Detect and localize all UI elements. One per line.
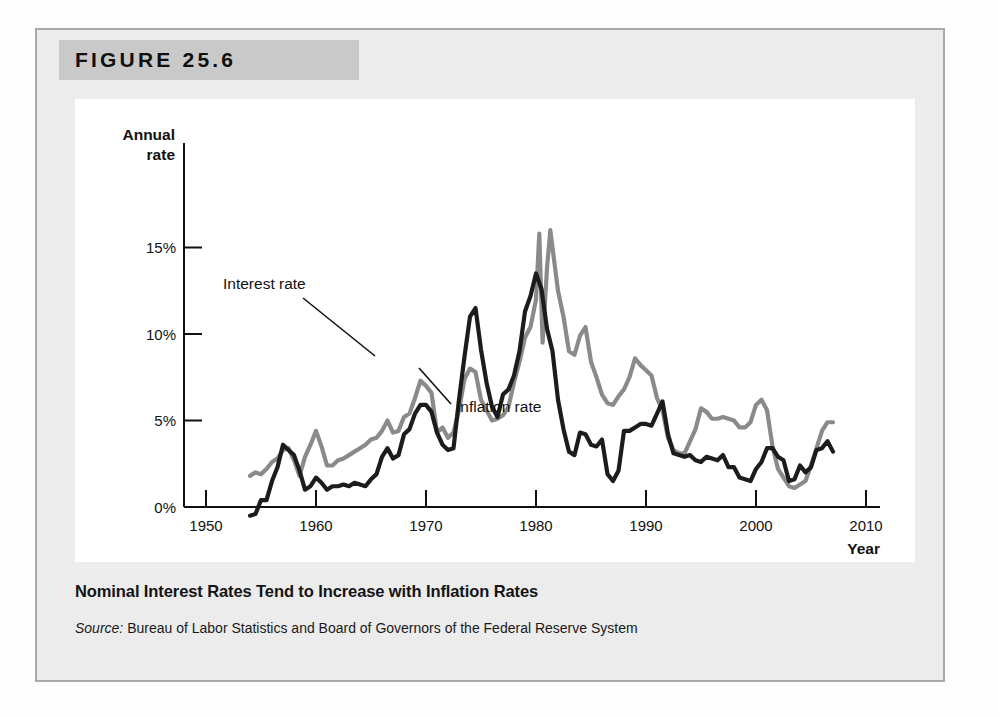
figure-number-band: FIGURE 25.6 <box>59 40 359 80</box>
y-tick-label: 0% <box>154 499 176 516</box>
figure-number-label: FIGURE 25.6 <box>59 48 236 72</box>
x-tick-label: 1950 <box>189 517 222 534</box>
figure-panel: FIGURE 25.6 0%5%10%15% 19501960197019801… <box>35 28 945 682</box>
x-axis-title: Year <box>847 540 880 557</box>
x-tick-label: 1970 <box>409 517 442 534</box>
x-tick-label: 1990 <box>629 517 662 534</box>
y-tick-label: 15% <box>146 239 176 256</box>
y-axis-tick-labels: 0%5%10%15% <box>146 239 176 516</box>
chart-plot-area: 0%5%10%15% 1950196019701980199020002010 … <box>75 99 915 562</box>
figure-source-label: Source: <box>75 620 123 636</box>
figure-caption-title: Nominal Interest Rates Tend to Increase … <box>75 582 925 601</box>
interest-rate-annotation: Interest rate <box>223 275 306 292</box>
x-axis-ticks <box>206 490 866 507</box>
figure-caption-block: Nominal Interest Rates Tend to Increase … <box>75 582 925 636</box>
line-chart: 0%5%10%15% 1950196019701980199020002010 … <box>75 99 915 562</box>
y-axis-title-line2: rate <box>147 146 176 163</box>
interest-rate-leader-line <box>303 298 375 356</box>
y-axis-ticks <box>184 248 202 508</box>
x-tick-label: 1960 <box>299 517 332 534</box>
x-tick-label: 2000 <box>739 517 772 534</box>
x-tick-label: 1980 <box>519 517 552 534</box>
figure-source-line: Source: Bureau of Labor Statistics and B… <box>75 620 925 636</box>
figure-source-text: Bureau of Labor Statistics and Board of … <box>123 620 637 636</box>
inflation-rate-annotation: Inflation rate <box>456 398 541 415</box>
interest-rate-line <box>250 230 833 488</box>
y-tick-label: 5% <box>154 412 176 429</box>
y-axis-title-line1: Annual <box>122 126 175 143</box>
x-tick-label: 2010 <box>849 517 882 534</box>
y-tick-label: 10% <box>146 326 176 343</box>
x-axis-tick-labels: 1950196019701980199020002010 <box>189 517 882 534</box>
